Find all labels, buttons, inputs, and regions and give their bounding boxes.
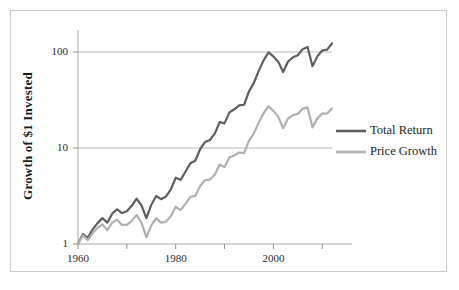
series-line-total-return: [78, 43, 332, 244]
y-tick-label: 1: [34, 237, 68, 249]
y-tick-label: 100: [34, 45, 68, 57]
x-tick-label: 2000: [250, 252, 296, 264]
chart-figure: Growth of $1 Invested 110100 19601980200…: [0, 0, 459, 290]
x-tick-label: 1960: [55, 252, 101, 264]
legend-label-price-growth: Price Growth: [370, 144, 437, 159]
legend-label-total-return: Total Return: [370, 123, 433, 138]
x-tick-label: 1980: [153, 252, 199, 264]
series-line-price-growth: [78, 106, 332, 244]
series-lines: [78, 43, 332, 244]
gridlines: [78, 52, 332, 148]
axis-ticks: [73, 52, 322, 249]
legend-swatches: [336, 131, 366, 152]
y-tick-label: 10: [34, 141, 68, 153]
